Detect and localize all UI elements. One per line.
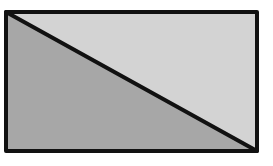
rectangle-diagram xyxy=(0,0,273,166)
